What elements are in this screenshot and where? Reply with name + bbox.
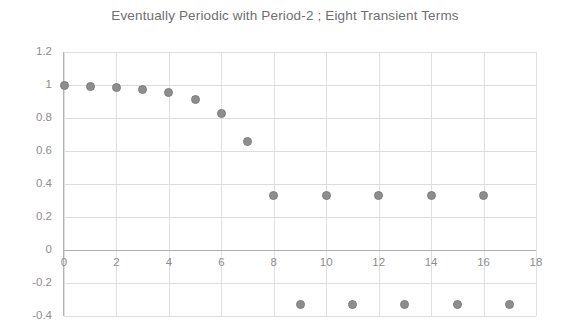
- gridline-vertical: [221, 52, 222, 316]
- plot-area: [64, 52, 536, 316]
- gridline-horizontal: [64, 184, 536, 185]
- gridline-vertical: [326, 52, 327, 316]
- chart-container: Eventually Periodic with Period-2 ; Eigh…: [0, 0, 570, 328]
- y-tick-label: 0.2: [0, 211, 52, 222]
- gridline-vertical: [484, 52, 485, 316]
- gridline-vertical: [169, 52, 170, 316]
- gridline-vertical: [536, 52, 537, 316]
- gridline-horizontal: [64, 52, 536, 53]
- gridline-horizontal: [64, 283, 536, 284]
- gridline-vertical: [379, 52, 380, 316]
- y-tick-label: 1.2: [0, 46, 52, 57]
- y-tick-label: -0.4: [0, 310, 52, 321]
- gridline-vertical: [274, 52, 275, 316]
- gridline-vertical: [431, 52, 432, 316]
- gridline-horizontal: [64, 85, 536, 86]
- gridline-horizontal: [64, 118, 536, 119]
- y-tick-label: 1: [0, 79, 52, 90]
- y-tick-label: 0.4: [0, 178, 52, 189]
- gridline-vertical: [116, 52, 117, 316]
- gridline-horizontal: [64, 217, 536, 218]
- y-axis-line: [63, 52, 64, 316]
- y-tick-label: 0.8: [0, 112, 52, 123]
- y-tick-label: 0: [0, 244, 52, 255]
- y-tick-label: 0.6: [0, 145, 52, 156]
- x-axis-line: [64, 250, 536, 251]
- gridline-horizontal: [64, 151, 536, 152]
- chart-title: Eventually Periodic with Period-2 ; Eigh…: [0, 8, 570, 23]
- y-tick-label: -0.2: [0, 277, 52, 288]
- gridline-horizontal: [64, 316, 536, 317]
- gridline-vertical: [64, 52, 65, 316]
